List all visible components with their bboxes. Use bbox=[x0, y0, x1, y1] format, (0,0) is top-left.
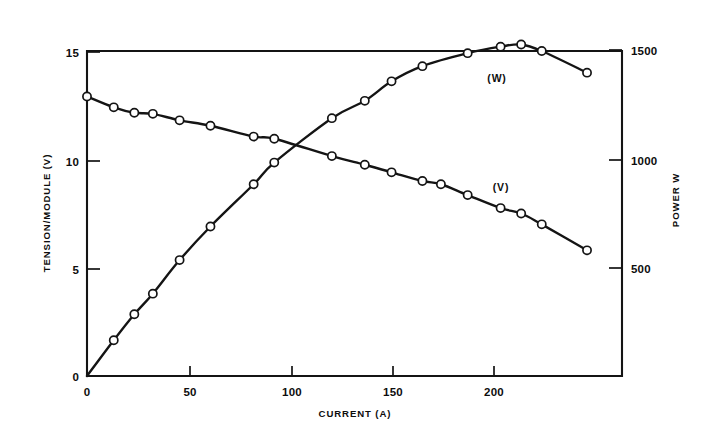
data-point-marker bbox=[328, 114, 336, 122]
data-point-marker bbox=[361, 97, 369, 105]
data-point-marker bbox=[206, 122, 214, 130]
data-point-marker bbox=[270, 135, 278, 143]
data-point-marker bbox=[149, 290, 157, 298]
data-point-marker bbox=[130, 310, 138, 318]
data-point-marker bbox=[497, 43, 505, 51]
data-point-marker bbox=[206, 222, 214, 230]
y-left-tick-label-15: 15 bbox=[66, 47, 80, 59]
chart-figure: 15 10 5 0 1500 1000 500 0 50 100 150 200… bbox=[0, 0, 716, 436]
y-left-axis-title: TENSION/MODULE (V) bbox=[41, 154, 52, 273]
data-point-marker bbox=[387, 168, 395, 176]
y-left-ticks bbox=[87, 52, 100, 269]
data-point-marker bbox=[361, 161, 369, 169]
data-point-marker bbox=[387, 77, 395, 85]
data-point-marker bbox=[418, 177, 426, 185]
data-point-marker bbox=[437, 180, 445, 188]
x-axis-title: CURRENT (A) bbox=[319, 408, 392, 419]
data-point-marker bbox=[130, 109, 138, 117]
data-point-marker bbox=[464, 49, 472, 57]
series-label-voltage: (V) bbox=[493, 181, 509, 193]
data-point-marker bbox=[270, 158, 278, 166]
data-point-marker bbox=[110, 103, 118, 111]
plot-frame bbox=[87, 51, 622, 376]
y-left-tick-label-5: 5 bbox=[72, 264, 79, 276]
data-point-marker bbox=[176, 256, 184, 264]
y-right-tick-label-1000: 1000 bbox=[631, 155, 657, 167]
series-label-power: (W) bbox=[487, 72, 506, 84]
data-point-marker bbox=[583, 69, 591, 77]
data-point-marker bbox=[464, 191, 472, 199]
data-point-marker bbox=[517, 40, 525, 48]
series-power bbox=[87, 40, 591, 376]
y-right-tick-label-500: 500 bbox=[631, 263, 651, 275]
y-left-tick-label-0: 0 bbox=[72, 371, 79, 383]
series-voltage bbox=[83, 92, 591, 254]
data-point-marker bbox=[250, 180, 258, 188]
series-line bbox=[87, 97, 587, 251]
x-ticks bbox=[190, 366, 494, 376]
x-tick-label-200: 200 bbox=[484, 386, 504, 398]
x-tick-label-0: 0 bbox=[84, 386, 91, 398]
data-point-marker bbox=[418, 62, 426, 70]
y-left-tick-label-10: 10 bbox=[66, 156, 79, 168]
data-series-layer bbox=[83, 40, 591, 376]
x-tick-label-50: 50 bbox=[183, 386, 196, 398]
x-tick-label-100: 100 bbox=[282, 386, 302, 398]
y-right-axis-title: POWER W bbox=[670, 173, 681, 227]
data-point-marker bbox=[250, 132, 258, 140]
y-right-tick-label-1500: 1500 bbox=[631, 45, 657, 57]
x-tick-label-150: 150 bbox=[383, 386, 403, 398]
data-point-marker bbox=[538, 220, 546, 228]
chart-canvas: 15 10 5 0 1500 1000 500 0 50 100 150 200… bbox=[0, 0, 716, 436]
data-point-marker bbox=[538, 47, 546, 55]
data-point-marker bbox=[149, 110, 157, 118]
data-point-marker bbox=[176, 116, 184, 124]
data-point-marker bbox=[497, 204, 505, 212]
data-point-marker bbox=[83, 92, 91, 100]
y-right-ticks bbox=[609, 50, 622, 268]
data-point-marker bbox=[583, 246, 591, 254]
data-point-marker bbox=[110, 336, 118, 344]
data-point-marker bbox=[517, 209, 525, 217]
data-point-marker bbox=[328, 152, 336, 160]
